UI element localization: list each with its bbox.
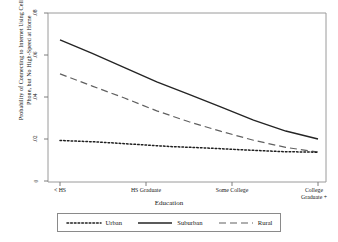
x-tick-label-1: HS Graduate (116, 187, 176, 194)
series-line-suburban (60, 40, 318, 139)
x-tick-label-0: < HS (40, 187, 80, 194)
x-tick-label-2: Some College (202, 187, 262, 194)
legend-label-rural: Rural (258, 219, 273, 226)
legend-swatch-rural-dashed-icon (218, 219, 254, 227)
y-axis-ticks (44, 13, 48, 181)
legend-label-suburban: Suburban (177, 219, 202, 226)
legend-swatch-suburban-solid-icon (137, 219, 173, 227)
legend-swatch-urban-dotted-icon (66, 219, 102, 227)
axis-frame (48, 13, 326, 182)
series-line-rural (60, 74, 318, 152)
x-axis-ticks (60, 182, 318, 186)
legend-item-urban[interactable]: Urban (66, 219, 122, 227)
legend-item-rural[interactable]: Rural (218, 219, 273, 227)
chart-legend: Urban Suburban Rural (57, 213, 281, 232)
legend-label-urban: Urban (106, 219, 122, 226)
chart-figure: Probability of Connecting to Internet Us… (0, 0, 338, 242)
x-axis-title: Education (0, 199, 338, 207)
legend-item-suburban[interactable]: Suburban (137, 219, 202, 227)
